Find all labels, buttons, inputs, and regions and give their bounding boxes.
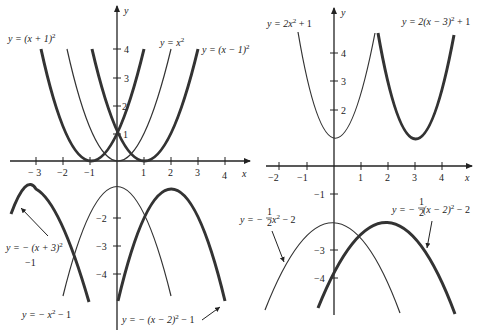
label-neg-half-x-squared-minus-2: y = − 1 2 x2 − 2 xyxy=(239,206,296,228)
svg-text:−3: −3 xyxy=(314,245,325,256)
svg-text:1: 1 xyxy=(123,129,128,140)
svg-text:−1: −1 xyxy=(297,172,308,183)
curve-neg-x-minus-2-squared-minus-1 xyxy=(118,189,225,301)
svg-text:x2 − 2: x2 − 2 xyxy=(271,213,296,225)
label-x-plus-1-squared: y = (x + 1)2 xyxy=(7,32,56,45)
curve-2-x-minus-3-squared-plus-1 xyxy=(378,33,454,139)
svg-text:y = −: y = − xyxy=(391,204,415,215)
left-x-axis-label: x xyxy=(241,168,247,179)
svg-text:−2: −2 xyxy=(57,167,68,178)
svg-text:3: 3 xyxy=(195,167,200,178)
svg-text:4: 4 xyxy=(222,170,227,181)
curve-neg-half-x-squared-minus-2 xyxy=(265,223,400,313)
label-2x-squared-plus-1: y = 2x2 + 1 xyxy=(266,17,312,29)
svg-text:2: 2 xyxy=(168,167,173,178)
svg-text:4: 4 xyxy=(439,172,444,183)
svg-text:−1: −1 xyxy=(314,189,325,200)
pointer-arrow-left-2 xyxy=(202,307,220,320)
svg-text:3: 3 xyxy=(124,73,129,84)
left-x-tick-labels: − 3 −2 −1 1 2 3 4 xyxy=(28,167,227,181)
svg-text:−2: −2 xyxy=(96,213,107,224)
label-neg-x-minus-2-squared-minus-1: y = − (x − 2)2 − 1 xyxy=(121,313,194,326)
left-plot: y x − 3 −2 −1 1 2 3 4 xyxy=(5,5,250,330)
left-y-axis-label: y xyxy=(123,5,129,16)
label-neg-x-plus-3-squared-minus-1-line2: −1 xyxy=(25,257,36,268)
svg-text:2: 2 xyxy=(385,172,390,183)
svg-text:−1: −1 xyxy=(84,167,95,178)
label-2-x-minus-3-squared-plus-1: y = 2(x − 3)2 + 1 xyxy=(401,15,470,28)
label-neg-x-squared-minus-1: y = − x2 − 1 xyxy=(21,308,71,320)
label-x-squared: y = x2 xyxy=(159,36,185,48)
curve-2x-squared-plus-1 xyxy=(298,32,375,138)
svg-text:y = −: y = − xyxy=(239,214,263,225)
svg-text:− 3: − 3 xyxy=(28,167,41,178)
right-plot: y x −2 −1 1 2 3 4 4 3 xyxy=(239,7,472,315)
svg-text:3: 3 xyxy=(341,76,346,87)
curve-x-plus-1-squared xyxy=(41,49,144,161)
pointer-arrow-right-2 xyxy=(427,221,432,248)
svg-text:−2: −2 xyxy=(268,172,279,183)
svg-text:−3: −3 xyxy=(96,241,107,252)
svg-text:−4: −4 xyxy=(314,273,325,284)
curve-neg-half-x-minus-2-squared-minus-2 xyxy=(318,222,455,314)
svg-text:1: 1 xyxy=(141,167,146,178)
svg-text:1: 1 xyxy=(358,172,363,183)
pointer-arrow-left-1 xyxy=(21,208,48,236)
right-x-tick-labels: −2 −1 1 2 3 4 xyxy=(268,172,444,183)
svg-text:2: 2 xyxy=(341,105,346,116)
curve-x-minus-1-squared xyxy=(92,49,198,161)
svg-text:(x − 2)2 − 2: (x − 2)2 − 2 xyxy=(423,203,470,216)
curve-x-squared xyxy=(67,49,171,161)
svg-text:4: 4 xyxy=(341,48,346,59)
label-neg-x-plus-3-squared-minus-1: y = − (x + 3)2 xyxy=(5,241,63,254)
figure: y x − 3 −2 −1 1 2 3 4 xyxy=(0,0,487,335)
right-x-axis-label: x xyxy=(464,172,470,183)
svg-text:−4: −4 xyxy=(96,269,107,280)
pointer-arrow-right-1 xyxy=(272,231,284,262)
svg-text:3: 3 xyxy=(412,172,417,183)
right-y-axis-label: y xyxy=(340,7,346,18)
label-neg-half-x-minus-2-squared-minus-2: y = − 1 2 (x − 2)2 − 2 xyxy=(391,196,470,218)
label-x-minus-1-squared: y = (x − 1)2 xyxy=(201,43,250,56)
svg-text:4: 4 xyxy=(124,44,129,55)
